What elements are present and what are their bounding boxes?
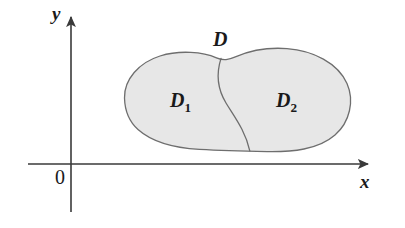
region-label-D1: D1 xyxy=(170,90,191,114)
x-axis-label: x xyxy=(360,172,370,191)
region-label-D2-subscript: 2 xyxy=(290,100,297,115)
y-axis-label: y xyxy=(52,4,60,23)
origin-label: 0 xyxy=(55,167,65,187)
region-label-D1-base: D xyxy=(170,89,184,111)
region-label-D1-subscript: 1 xyxy=(184,100,191,115)
diagram-svg xyxy=(0,0,405,228)
region-D-shape xyxy=(124,48,350,151)
region-label-D2-base: D xyxy=(276,89,290,111)
region-label-D: D xyxy=(213,29,227,49)
region-label-D2: D2 xyxy=(276,90,297,114)
figure-canvas: y x 0 D D1 D2 xyxy=(0,0,405,228)
